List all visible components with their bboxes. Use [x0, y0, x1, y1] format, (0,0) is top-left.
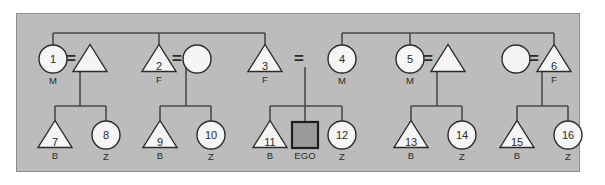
kin-node-number: 13	[396, 136, 426, 148]
connector-lines	[53, 33, 568, 122]
kin-node-label: EGO	[285, 150, 325, 161]
kin-node-label: Z	[86, 151, 126, 162]
kin-node-label: Z	[322, 151, 362, 162]
kin-node-label: B	[250, 150, 290, 161]
kin-node-number: 8	[91, 129, 121, 141]
kin-node-label: B	[497, 150, 537, 161]
kin-node-triangle[interactable]	[73, 45, 107, 72]
kin-node-number: 7	[40, 136, 70, 148]
kin-node-label: B	[140, 150, 180, 161]
kin-node-number: 6	[539, 60, 569, 72]
kin-node-number: 4	[327, 53, 357, 65]
kin-node-number: 15	[502, 136, 532, 148]
kin-node-label: B	[35, 150, 75, 161]
kinship-diagram: 1M2F3F4M5M6F7B8Z9B10Z11BEGO12Z13B14Z15B1…	[0, 0, 605, 185]
kin-node-number: 16	[553, 129, 583, 141]
union-equals-symbol: =	[529, 50, 539, 67]
kin-node-circle[interactable]	[502, 45, 530, 73]
kin-node-square-ego[interactable]	[292, 122, 318, 148]
kin-node-label: M	[390, 75, 430, 86]
kin-node-number: 2	[144, 60, 174, 72]
kin-node-number: 3	[250, 60, 280, 72]
kin-node-label: Z	[191, 151, 231, 162]
union-equals-symbol: =	[294, 50, 304, 67]
kin-node-number: 14	[447, 129, 477, 141]
kin-node-label: F	[534, 74, 574, 85]
kin-node-number: 5	[395, 53, 425, 65]
kin-node-label: M	[33, 75, 73, 86]
union-equals-symbol: =	[423, 50, 433, 67]
kin-node-number: 10	[196, 129, 226, 141]
kin-node-label: M	[322, 75, 362, 86]
union-equals-symbol: =	[172, 50, 182, 67]
kin-node-number: 9	[145, 136, 175, 148]
union-equals-symbol: =	[66, 50, 76, 67]
kin-node-number: 12	[327, 129, 357, 141]
kin-node-label: F	[245, 74, 285, 85]
kin-node-label: B	[391, 150, 431, 161]
kin-node-number: 1	[38, 53, 68, 65]
kin-node-label: F	[139, 74, 179, 85]
kin-node-triangle[interactable]	[431, 45, 465, 72]
kin-node-circle[interactable]	[183, 45, 211, 73]
kin-node-number: 11	[255, 136, 285, 148]
kin-node-label: Z	[548, 151, 588, 162]
kin-node-label: Z	[442, 151, 482, 162]
